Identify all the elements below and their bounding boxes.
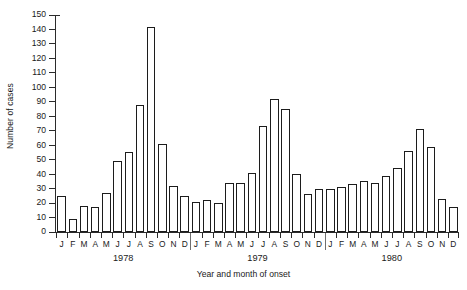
- y-axis-tick-label: 110: [2, 68, 46, 77]
- x-axis-tick: [448, 233, 449, 238]
- x-axis-title-text: Year and month of onset: [197, 269, 290, 279]
- x-axis-month-label: O: [157, 239, 168, 250]
- bar: [69, 219, 78, 232]
- year-separator: [190, 233, 191, 250]
- x-axis-tick: [258, 233, 259, 238]
- x-axis-tick: [56, 233, 57, 238]
- bar: [113, 161, 122, 232]
- bar: [169, 186, 178, 232]
- y-axis-tick-labels: 0102030405060708090100110120130140150: [0, 0, 46, 290]
- y-axis-tick: [49, 72, 55, 73]
- x-axis-tick: [381, 233, 382, 238]
- bar-series: [56, 15, 459, 232]
- epidemic-curve-chart: Number of cases 010203040506070809010011…: [0, 0, 467, 290]
- x-axis-month-label: M: [369, 239, 380, 250]
- bar: [281, 109, 290, 232]
- bar: [259, 126, 268, 232]
- x-axis-tick: [202, 233, 203, 238]
- x-axis-tick: [414, 233, 415, 238]
- x-axis-month-label: J: [392, 239, 403, 250]
- bar: [292, 174, 301, 232]
- bar: [382, 176, 391, 232]
- x-axis-month-label: J: [112, 239, 123, 250]
- bar: [102, 193, 111, 232]
- x-axis-month-label: A: [269, 239, 280, 250]
- y-axis-tick: [49, 29, 55, 30]
- x-axis-tick: [336, 233, 337, 238]
- bar: [315, 189, 324, 232]
- x-axis-month-label: J: [56, 239, 67, 250]
- bar: [248, 173, 257, 232]
- x-axis-month-label: M: [101, 239, 112, 250]
- x-axis-month-label: D: [313, 239, 324, 250]
- bar: [427, 147, 436, 232]
- bar: [270, 99, 279, 232]
- y-axis-tick-label: 100: [2, 83, 46, 92]
- x-axis-month-label: M: [235, 239, 246, 250]
- x-axis-month-label: F: [202, 239, 213, 250]
- y-axis-tick-label: 10: [2, 213, 46, 222]
- bar: [80, 206, 89, 232]
- x-axis-tick: [269, 233, 270, 238]
- x-axis-tick: [135, 233, 136, 238]
- y-axis-tick: [49, 203, 55, 204]
- x-axis-month-label: N: [437, 239, 448, 250]
- x-axis-tick: [426, 233, 427, 238]
- x-axis-year-label: 1980: [325, 252, 459, 264]
- bar: [449, 207, 458, 232]
- x-axis-month-label: F: [336, 239, 347, 250]
- x-axis-tick: [112, 233, 113, 238]
- x-axis-year-label: 1979: [190, 252, 324, 264]
- x-axis-tick: [213, 233, 214, 238]
- x-axis-year-label: 1978: [56, 252, 190, 264]
- y-axis-tick-label: 30: [2, 184, 46, 193]
- x-axis-month-labels: JFMAMJJASONDJFMAMJJASONDJFMAMJJASOND: [56, 239, 459, 251]
- y-axis-tick-label: 0: [2, 227, 46, 236]
- x-axis-month-label: J: [258, 239, 269, 250]
- x-axis-tick: [314, 233, 315, 238]
- y-axis-tick: [49, 188, 55, 189]
- x-axis-month-label: J: [246, 239, 257, 250]
- y-axis-tick-label: 70: [2, 126, 46, 135]
- x-axis-month-label: M: [213, 239, 224, 250]
- y-axis-tick-label: 150: [2, 10, 46, 19]
- bar: [236, 183, 245, 232]
- x-axis-tick: [235, 233, 236, 238]
- x-axis-month-label: M: [78, 239, 89, 250]
- bar: [158, 144, 167, 232]
- x-axis-month-label: N: [168, 239, 179, 250]
- x-axis-tick: [146, 233, 147, 238]
- bar: [393, 168, 402, 232]
- bar: [360, 181, 369, 232]
- y-axis-tick: [49, 174, 55, 175]
- x-axis-tick: [392, 233, 393, 238]
- bar: [326, 189, 335, 232]
- x-axis-title: Year and month of onset: [0, 269, 467, 279]
- y-axis-tick-label: 40: [2, 170, 46, 179]
- x-axis-tick: [224, 233, 225, 238]
- x-axis-month-label: A: [90, 239, 101, 250]
- y-axis-tick: [49, 43, 55, 44]
- x-axis-tick: [90, 233, 91, 238]
- x-axis-month-label: A: [224, 239, 235, 250]
- x-axis-tick: [79, 233, 80, 238]
- y-axis-tick: [49, 130, 55, 131]
- bar: [125, 152, 134, 232]
- bar: [404, 151, 413, 232]
- x-axis-tick: [101, 233, 102, 238]
- bar: [136, 105, 145, 232]
- x-axis-year-labels: 197819791980: [56, 252, 459, 266]
- y-axis-tick-label: 20: [2, 198, 46, 207]
- y-axis-tick-label: 50: [2, 155, 46, 164]
- y-axis-tick-label: 130: [2, 39, 46, 48]
- x-axis-tick: [179, 233, 180, 238]
- x-axis-tick: [291, 233, 292, 238]
- x-axis-month-label: N: [302, 239, 313, 250]
- x-axis-month-label: S: [280, 239, 291, 250]
- x-axis-tick: [280, 233, 281, 238]
- y-axis-tick-label: 90: [2, 97, 46, 106]
- x-axis-month-label: A: [403, 239, 414, 250]
- x-axis-month-label: O: [425, 239, 436, 250]
- x-axis-month-label: A: [134, 239, 145, 250]
- x-axis-month-label: O: [291, 239, 302, 250]
